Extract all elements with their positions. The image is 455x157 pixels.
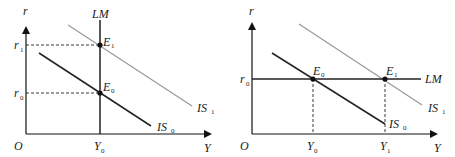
left-y-axis-label: r: [23, 4, 28, 18]
right-y1-sub: 1: [387, 147, 391, 155]
right-is0-label: IS: [388, 117, 399, 131]
left-e1-sub: 1: [111, 42, 115, 50]
left-e0-label: E: [102, 80, 111, 94]
left-is0-label: IS: [156, 120, 167, 134]
left-e1-label: E: [102, 35, 111, 49]
left-e0-sub: 0: [111, 87, 115, 95]
right-is1-label: IS: [427, 101, 438, 115]
left-r1-sub: 1: [20, 46, 24, 54]
right-e0-sub: 0: [321, 71, 325, 79]
right-e1-sub: 1: [394, 71, 398, 79]
left-is1-curve: [68, 25, 192, 106]
left-r0-label: r: [14, 86, 19, 100]
right-r0-label: r: [240, 72, 245, 86]
left-origin-label: O: [14, 139, 23, 153]
right-is1-sub: 1: [442, 108, 446, 116]
left-is1-sub: 1: [211, 108, 215, 116]
left-panel: r Y O LM E 1 E 0 r 1 r 0 Y 0 IS 0 IS 1: [14, 4, 215, 155]
right-panel: r Y O LM E 0 E 1 r 0 Y 0 Y 1 IS 0 IS 1: [240, 4, 446, 155]
left-r0-sub: 0: [20, 94, 24, 102]
right-e0-label: E: [312, 64, 321, 78]
right-y-axis-label: r: [249, 4, 254, 18]
right-e1-label: E: [385, 64, 394, 78]
left-is0-sub: 0: [171, 127, 175, 135]
left-lm-label: LM: [91, 7, 110, 21]
left-e1-point: [97, 42, 102, 47]
is-lm-diagrams: r Y O LM E 1 E 0 r 1 r 0 Y 0 IS 0 IS 1: [0, 0, 455, 157]
right-r0-sub: 0: [246, 80, 250, 88]
left-is1-label: IS: [196, 101, 207, 115]
left-x-axis-label: Y: [204, 141, 212, 155]
left-r1-label: r: [14, 38, 19, 52]
right-origin-label: O: [240, 139, 249, 153]
right-is0-curve: [272, 53, 385, 124]
left-e0-point: [97, 90, 102, 95]
right-y0-sub: 0: [314, 147, 318, 155]
left-y0-sub: 0: [101, 147, 105, 155]
right-x-axis-label: Y: [434, 141, 442, 155]
right-is0-sub: 0: [403, 124, 407, 132]
right-lm-label: LM: [424, 72, 443, 86]
left-is0-curve: [39, 53, 151, 126]
